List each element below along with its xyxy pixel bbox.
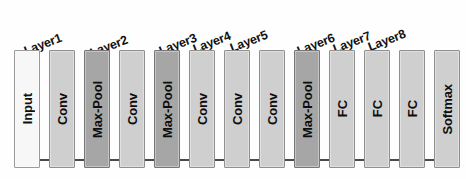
- block-connector: [110, 159, 119, 161]
- block-label: Conv: [196, 93, 209, 125]
- block-label: Conv: [266, 93, 279, 125]
- block-label: Input: [21, 93, 34, 124]
- block-label: FC: [336, 100, 349, 117]
- block-label: Max-Pool: [301, 81, 314, 138]
- block-input: Input: [14, 50, 40, 168]
- block-label: Conv: [126, 93, 139, 125]
- block-softmax: Softmax: [434, 50, 460, 168]
- block-connector: [355, 159, 364, 161]
- network-block-row: InputConvMax-PoolConvMax-PoolConvConvCon…: [0, 50, 466, 170]
- block-label: Softmax: [441, 84, 454, 135]
- cnn-architecture-diagram: Layer1Layer2Layer3Layer4Layer5Layer6Laye…: [0, 0, 466, 179]
- block-fc: FC: [364, 50, 390, 168]
- block-label: Max-Pool: [161, 81, 174, 138]
- block-maxpool: Max-Pool: [294, 50, 320, 168]
- block-conv: Conv: [259, 50, 285, 168]
- block-connector: [285, 159, 294, 161]
- block-conv: Conv: [119, 50, 145, 168]
- block-connector: [145, 159, 154, 161]
- block-connector: [40, 159, 49, 161]
- block-connector: [215, 159, 224, 161]
- block-connector: [75, 159, 84, 161]
- block-label: FC: [371, 100, 384, 117]
- block-connector: [390, 159, 399, 161]
- block-connector: [180, 159, 189, 161]
- block-fc: FC: [329, 50, 355, 168]
- block-maxpool: Max-Pool: [154, 50, 180, 168]
- block-connector: [320, 159, 329, 161]
- block-fc: FC: [399, 50, 425, 168]
- block-conv: Conv: [224, 50, 250, 168]
- block-label: Conv: [231, 93, 244, 125]
- layer-caption-group: Layer1Layer2Layer3Layer4Layer5Layer6Laye…: [0, 0, 466, 50]
- block-conv: Conv: [49, 50, 75, 168]
- block-maxpool: Max-Pool: [84, 50, 110, 168]
- block-conv: Conv: [189, 50, 215, 168]
- block-connector: [425, 159, 434, 161]
- block-label: Max-Pool: [91, 81, 104, 138]
- block-connector: [250, 159, 259, 161]
- block-label: Conv: [56, 93, 69, 125]
- block-label: FC: [406, 100, 419, 117]
